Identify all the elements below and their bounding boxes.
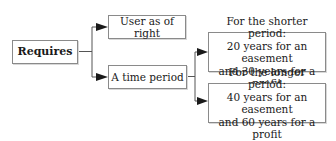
user-as-of-right-label: User as of right [109,15,185,40]
longer-period-line-3: and 60 years for a profit [209,116,325,141]
shorter-period-line-1: For the shorter period: [209,15,325,40]
requires-box: Requires [12,40,78,64]
arrow-icon [96,73,108,81]
shorter-period-line-2: 20 years for an easement [209,40,325,65]
longer-period-line-1: For the longer period: [209,66,325,91]
requires-label: Requires [18,46,73,59]
user-as-of-right-box: User as of right [108,15,186,39]
time-period-label: A time period [111,71,183,84]
arrow-icon [96,23,108,31]
arrow-icon [197,48,208,56]
longer-period-line-2: 40 years for an easement [209,91,325,116]
longer-period-box: For the longer period: 40 years for an e… [208,83,326,123]
time-period-box: A time period [108,65,187,89]
arrow-icon [197,97,208,105]
